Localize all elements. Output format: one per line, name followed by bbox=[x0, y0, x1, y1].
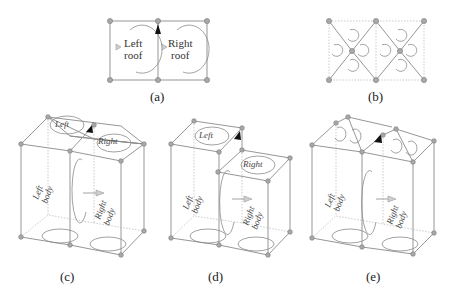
left-base-cycle-arrow bbox=[190, 229, 226, 243]
left-base-cycle-arrow bbox=[42, 229, 78, 243]
caption-e: (e) bbox=[366, 269, 380, 284]
right-roof-orientation-icon bbox=[162, 44, 167, 50]
caption-a: (a) bbox=[150, 89, 164, 104]
vertex bbox=[204, 77, 209, 82]
caption-c: (c) bbox=[60, 269, 74, 284]
panel-b: (b) bbox=[326, 18, 426, 104]
left-base-cycle-arrow bbox=[332, 229, 368, 243]
caption-b: (b) bbox=[368, 89, 383, 104]
shared-face-cycle-arrow bbox=[362, 171, 376, 235]
right-roof-label: Right bbox=[97, 136, 118, 146]
shared-face-cycle-arrow bbox=[72, 159, 86, 223]
shared-edge-arrow-icon bbox=[155, 24, 161, 34]
vertex bbox=[107, 77, 112, 82]
shared-face-cycle-arrow bbox=[220, 171, 234, 235]
panel-b-outline bbox=[329, 21, 424, 80]
right-roof-label: Right bbox=[242, 159, 263, 169]
a-right-roof-label-2: roof bbox=[171, 49, 190, 61]
left-roof-label: Left bbox=[198, 130, 214, 140]
face-normal-arrow-icon bbox=[388, 196, 396, 202]
face-normal-arrow-icon bbox=[96, 190, 104, 196]
ridge-left bbox=[348, 117, 392, 127]
right-gable bbox=[362, 129, 413, 162]
vertex bbox=[107, 18, 112, 23]
vertex bbox=[373, 77, 378, 82]
vertex bbox=[397, 48, 402, 53]
caption-d: (d) bbox=[208, 269, 223, 284]
right-base-cycle-arrow bbox=[238, 237, 274, 251]
hidden-edge bbox=[21, 215, 144, 237]
vertex bbox=[373, 18, 378, 23]
a-left-roof-label-2: roof bbox=[124, 49, 143, 61]
face-normal-arrow-icon bbox=[244, 196, 252, 202]
diagram-canvas: Left roof Right roof (a) bbox=[0, 0, 455, 286]
vertex bbox=[326, 77, 331, 82]
a-left-roof-label-1: Left bbox=[124, 37, 142, 49]
figure: Left roof Right roof (a) bbox=[0, 0, 455, 286]
vertex bbox=[204, 18, 209, 23]
edge bbox=[329, 21, 352, 80]
left-roof-orientation-icon bbox=[116, 44, 121, 50]
top-face-outline bbox=[21, 117, 144, 161]
panel-e: Left body Right body (e) bbox=[310, 115, 437, 284]
a-right-roof-label-1: Right bbox=[168, 37, 192, 49]
vertex bbox=[421, 77, 426, 82]
left-roof-label: Left bbox=[54, 119, 70, 129]
vertex bbox=[155, 77, 160, 82]
vertex bbox=[155, 18, 160, 23]
hidden-edge bbox=[171, 216, 290, 238]
panel-d: Left Right Left body Right body (d) bbox=[169, 119, 293, 284]
vertex bbox=[421, 18, 426, 23]
hidden-edge bbox=[312, 216, 434, 238]
face-cycle-arrows bbox=[332, 29, 417, 71]
panel-c: Left Right Left body Right body (c) bbox=[19, 115, 147, 284]
edge bbox=[312, 233, 434, 254]
edge bbox=[376, 21, 400, 80]
panel-a: Left roof Right roof (a) bbox=[107, 18, 209, 104]
vertex bbox=[349, 48, 354, 53]
edge bbox=[171, 232, 290, 255]
vertex bbox=[326, 18, 331, 23]
